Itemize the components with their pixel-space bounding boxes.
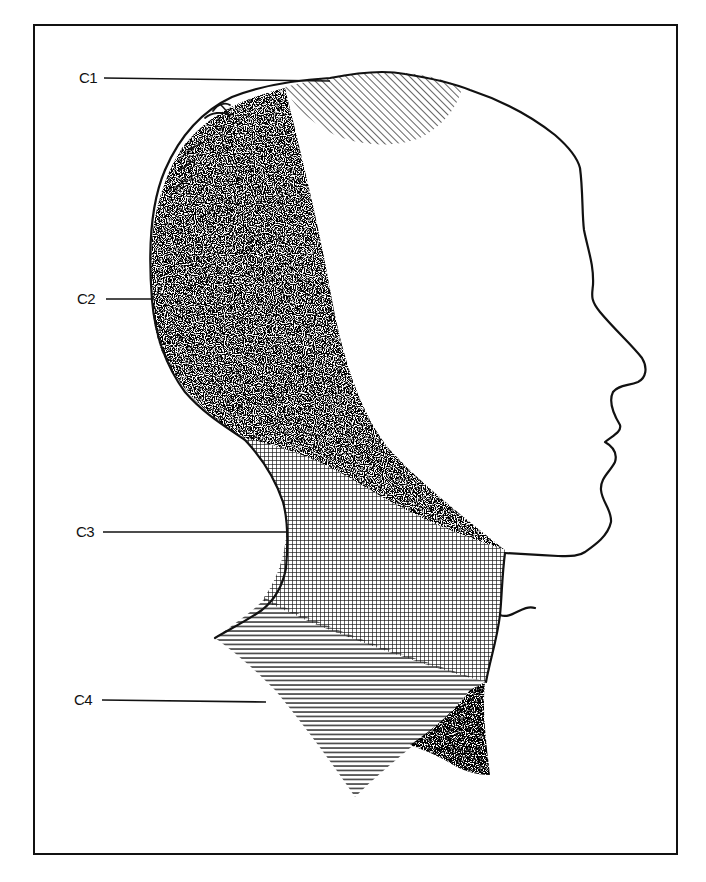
region-c1-hatch: [285, 72, 462, 145]
label-c2: C2: [77, 291, 95, 306]
label-c4: C4: [74, 692, 92, 707]
leader-c1: [104, 78, 330, 81]
label-c1: C1: [79, 70, 97, 85]
dermatome-figure: [0, 0, 706, 882]
leader-c4: [102, 700, 266, 702]
label-c3: C3: [76, 524, 94, 539]
